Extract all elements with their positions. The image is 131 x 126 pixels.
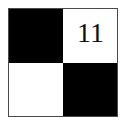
- checker-cell-bottom-right: [63, 63, 117, 117]
- figure-root: 11: [0, 0, 131, 126]
- checker-cell-bottom-left: [9, 63, 63, 117]
- checker-cell-top-right: 11: [63, 9, 117, 63]
- checker-cell-top-left: [9, 9, 63, 63]
- checker-cell-top-right-label: 11: [77, 19, 104, 47]
- checkerboard-square: 11: [8, 8, 118, 117]
